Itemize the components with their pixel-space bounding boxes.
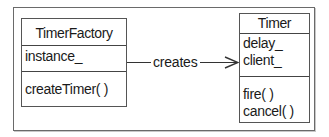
operation: cancel( ): [243, 103, 309, 120]
operations-section: fire( ) cancel( ): [240, 76, 309, 122]
attribute: client_: [243, 52, 309, 69]
class-timer[interactable]: Timer delay_ client_ fire( ) cancel( ): [239, 13, 310, 123]
class-name: Timer: [240, 14, 309, 33]
operation: createTimer( ): [25, 81, 126, 98]
attribute: instance_: [25, 48, 126, 65]
operations-section: createTimer( ): [22, 71, 126, 106]
attributes-section: instance_: [22, 45, 126, 71]
attributes-section: delay_ client_: [240, 33, 309, 76]
class-name: TimerFactory: [22, 19, 126, 45]
class-timerfactory[interactable]: TimerFactory instance_ createTimer( ): [21, 18, 127, 107]
association-label: creates: [151, 54, 200, 70]
attribute: delay_: [243, 35, 309, 52]
association-creates[interactable]: creates: [127, 55, 239, 71]
operation: fire( ): [243, 86, 309, 103]
